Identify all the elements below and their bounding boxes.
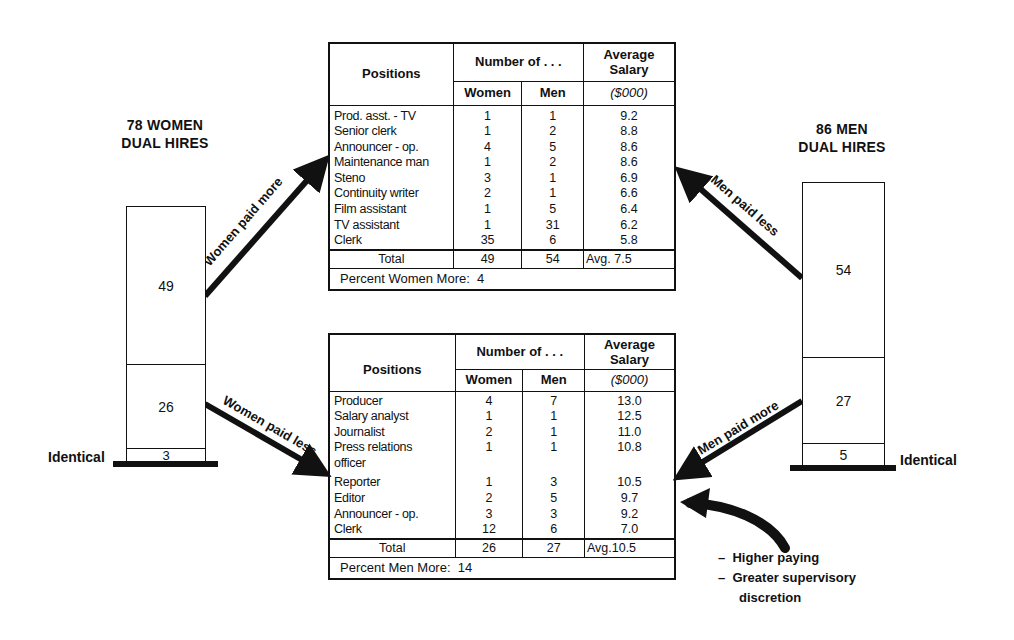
- table-row: TV assistant1316.2: [329, 218, 675, 234]
- cell-position: Reporter: [329, 471, 455, 491]
- cell-salary: 7.0: [584, 522, 675, 539]
- cell-women: 2: [455, 425, 523, 441]
- cell-men: 7: [523, 391, 585, 409]
- cell-women: 1: [453, 202, 522, 218]
- header-avg-line2: Salary: [588, 62, 670, 77]
- percent-row: Percent Men More: 14: [329, 557, 675, 579]
- men-segment-value: 5: [840, 447, 848, 463]
- cell-position: Journalist: [329, 425, 455, 441]
- cell-men: 6: [523, 522, 585, 539]
- men-heading-line2: DUAL HIRES: [772, 138, 912, 156]
- cell-men: 1: [522, 186, 584, 202]
- cell-women: 2: [455, 491, 523, 507]
- men-segment-paid-less: 54: [803, 183, 884, 357]
- cell-position: TV assistant: [329, 218, 453, 234]
- men-segment-value: 54: [836, 262, 852, 278]
- cell-men: 3: [523, 507, 585, 523]
- table-row: Press relations1110.8: [329, 440, 675, 456]
- cell-salary: [584, 456, 675, 472]
- total-women: 49: [453, 250, 522, 269]
- cell-position: Editor: [329, 491, 455, 507]
- cell-position: Maintenance man: [329, 155, 453, 171]
- total-avg: Avg. 7.5: [584, 250, 676, 269]
- men-heading: 86 MEN DUAL HIRES: [772, 120, 912, 156]
- women-segment-identical: 3: [127, 448, 205, 462]
- women-identical-label: Identical: [48, 449, 105, 465]
- cell-women: 1: [455, 471, 523, 491]
- cell-men: 2: [522, 155, 584, 171]
- cell-position: Continuity writer: [329, 186, 453, 202]
- men-segment-identical: 5: [803, 443, 884, 465]
- table-row: Announcer - op.458.6: [329, 140, 675, 156]
- cell-women: 12: [455, 522, 523, 539]
- header-unit: ($000): [584, 369, 675, 391]
- table-row: Maintenance man128.6: [329, 155, 675, 171]
- header-avg-line2: Salary: [589, 352, 670, 367]
- women-segment-paid-more: 49: [127, 207, 205, 364]
- cell-men: 1: [523, 409, 585, 425]
- table-row: Salary analyst1112.5: [329, 409, 675, 425]
- cell-salary: 6.4: [584, 202, 676, 218]
- cell-salary: 6.9: [584, 171, 676, 187]
- table-women-paid-more: Positions Number of . . . Average Salary…: [328, 42, 676, 291]
- women-heading: 78 WOMEN DUAL HIRES: [95, 116, 235, 152]
- men-segment-value: 27: [836, 393, 852, 409]
- total-men: 27: [523, 539, 585, 558]
- cell-position: Film assistant: [329, 202, 453, 218]
- cell-position: Press relations: [329, 440, 455, 456]
- header-women: Women: [455, 369, 523, 391]
- table-row: Prod. asst. - TV119.2: [329, 105, 675, 124]
- women-segment-value: 49: [158, 278, 174, 294]
- header-men: Men: [523, 369, 585, 391]
- table-row: Film assistant156.4: [329, 202, 675, 218]
- header-average-salary: Average Salary: [584, 334, 675, 369]
- cell-salary: 10.5: [584, 471, 675, 491]
- percent-row: Percent Women More: 4: [329, 268, 675, 290]
- header-positions: Positions: [329, 43, 453, 105]
- cell-position: Senior clerk: [329, 124, 453, 140]
- women-stacked-bar: 49 26 3: [126, 206, 206, 462]
- table-row: Announcer - op.339.2: [329, 507, 675, 523]
- cell-men: 1: [523, 425, 585, 441]
- cell-women: [455, 456, 523, 472]
- women-bar-base: [113, 461, 218, 467]
- cell-salary: 6.2: [584, 218, 676, 234]
- table-row: Continuity writer216.6: [329, 186, 675, 202]
- cell-position: Clerk: [329, 233, 453, 250]
- cell-women: 3: [453, 171, 522, 187]
- cell-salary: 8.8: [584, 124, 676, 140]
- cell-salary: 9.2: [584, 507, 675, 523]
- cell-men: 6: [522, 233, 584, 250]
- table-row: Clerk1267.0: [329, 522, 675, 539]
- cell-women: 1: [453, 218, 522, 234]
- cell-women: 1: [453, 105, 522, 124]
- table-row: Steno316.9: [329, 171, 675, 187]
- cell-men: 2: [522, 124, 584, 140]
- note-higher-paying: – Higher paying: [718, 548, 856, 568]
- table-row: Journalist2111.0: [329, 425, 675, 441]
- arrow-men-paid-less: [688, 178, 802, 278]
- cell-men: 5: [522, 140, 584, 156]
- cell-salary: 13.0: [584, 391, 675, 409]
- cell-salary: 9.7: [584, 491, 675, 507]
- women-segment-value: 26: [158, 399, 174, 415]
- cell-women: 4: [455, 391, 523, 409]
- cell-women: 3: [455, 507, 523, 523]
- table-men-paid-more: Positions Number of . . . Average Salary…: [328, 333, 676, 580]
- total-label: Total: [329, 539, 455, 558]
- cell-position: Announcer - op.: [329, 507, 455, 523]
- cell-salary: 8.6: [584, 155, 676, 171]
- cell-women: 4: [453, 140, 522, 156]
- cell-women: 1: [455, 409, 523, 425]
- header-unit: ($000): [584, 81, 676, 105]
- cell-women: 1: [455, 440, 523, 456]
- cell-salary: 5.8: [584, 233, 676, 250]
- cell-men: 31: [522, 218, 584, 234]
- header-avg-line1: Average: [589, 337, 670, 352]
- men-bar-base: [790, 465, 896, 471]
- percent-women-more: Percent Women More: 4: [329, 268, 675, 290]
- cell-women: 35: [453, 233, 522, 250]
- table-row: Senior clerk128.8: [329, 124, 675, 140]
- note-greater-supervisory: – Greater supervisory: [718, 568, 856, 588]
- percent-men-more: Percent Men More: 14: [329, 557, 675, 579]
